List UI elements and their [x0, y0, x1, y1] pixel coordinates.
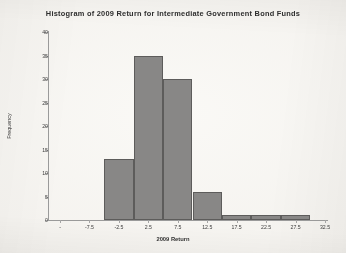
x-axis-title: 2009 Return: [0, 236, 346, 242]
y-tick-label: 0: [30, 217, 48, 223]
x-tick-mark: [325, 220, 326, 223]
histogram-bar: [134, 56, 163, 221]
x-tick-label: -: [59, 224, 61, 230]
histogram-bar: [163, 79, 192, 220]
y-axis-line: [48, 31, 49, 221]
y-tick-label: 5: [30, 194, 48, 200]
x-tick-label: 17.5: [232, 224, 242, 230]
x-tick-mark: [296, 220, 297, 223]
y-tick-label: 20: [30, 123, 48, 129]
x-tick-mark: [60, 220, 61, 223]
plot-area: [60, 32, 325, 220]
x-tick-label: 12.5: [202, 224, 212, 230]
y-tick-label: 15: [30, 147, 48, 153]
x-tick-mark: [237, 220, 238, 223]
x-tick-label: 32.5: [320, 224, 330, 230]
x-tick-label: 27.5: [290, 224, 300, 230]
x-tick-mark: [266, 220, 267, 223]
y-tick-label: 10: [30, 170, 48, 176]
y-tick-label: 40: [30, 29, 48, 35]
y-tick-label: 30: [30, 76, 48, 82]
histogram-bar: [104, 159, 133, 220]
x-tick-label: 22.5: [261, 224, 271, 230]
x-tick-label: -7.5: [85, 224, 94, 230]
x-tick-mark: [207, 220, 208, 223]
y-tick-label: 35: [30, 53, 48, 59]
chart-title: Histogram of 2009 Return for Intermediat…: [0, 9, 346, 18]
y-axis-title: Frequency: [6, 113, 12, 138]
x-tick-mark: [89, 220, 90, 223]
x-tick-label: 7.5: [174, 224, 181, 230]
y-tick-label: 25: [30, 100, 48, 106]
histogram-figure: Histogram of 2009 Return for Intermediat…: [0, 0, 346, 253]
x-tick-label: -2.5: [114, 224, 123, 230]
histogram-bars: [60, 32, 325, 220]
x-tick-mark: [119, 220, 120, 223]
histogram-bar: [193, 192, 222, 220]
x-tick-mark: [178, 220, 179, 223]
x-tick-label: 2.5: [145, 224, 152, 230]
x-tick-mark: [148, 220, 149, 223]
